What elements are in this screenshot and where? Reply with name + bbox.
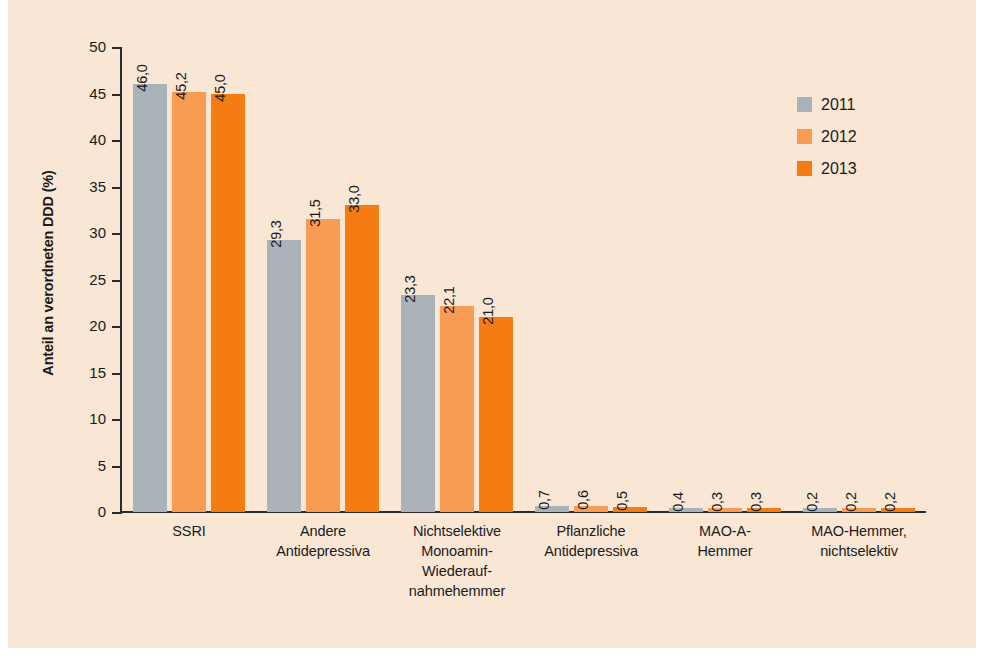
chart-figure: Anteil an verordneten DDD (%) 0510152025… [0, 0, 984, 670]
y-tick-label: 20 [52, 317, 106, 334]
bar-column[interactable]: 45,0 [211, 94, 245, 513]
bar-column[interactable]: 0,2 [842, 510, 876, 512]
bar-column[interactable]: 0,3 [747, 509, 781, 512]
y-tick-label: 30 [52, 224, 106, 241]
bar-2011[interactable] [133, 84, 167, 512]
category-label-line: nichtselektiv [780, 541, 938, 561]
bar-column[interactable]: 46,0 [133, 84, 167, 512]
bar-column[interactable]: 33,0 [345, 205, 379, 512]
bar-column[interactable]: 0,6 [574, 506, 608, 512]
category-label-line: MAO-Hemmer, [780, 521, 938, 541]
bar-value-label: 33,0 [346, 185, 362, 212]
bar-2012[interactable] [172, 92, 206, 512]
bar-value-label: 46,0 [134, 64, 150, 91]
bar-column[interactable]: 29,3 [267, 240, 301, 512]
bar-2012[interactable] [306, 219, 340, 512]
bar-value-label: 0,2 [804, 492, 820, 512]
bar-value-label: 0,2 [843, 492, 859, 512]
category-label: MAO-Hemmer,nichtselektiv [780, 521, 938, 561]
bar-value-label: 21,0 [480, 297, 496, 324]
y-tick-label: 40 [52, 131, 106, 148]
bar-column[interactable]: 0,7 [535, 506, 569, 513]
legend-swatch-icon [797, 97, 812, 112]
legend-item[interactable]: 2012 [797, 124, 857, 149]
bar-value-label: 0,3 [748, 492, 764, 512]
y-tick-label: 50 [52, 38, 106, 55]
bar-group: 0,40,30,3 [658, 47, 792, 512]
bar-column[interactable]: 0,2 [881, 510, 915, 512]
bar-value-label: 0,4 [670, 492, 686, 512]
bar-column[interactable]: 22,1 [440, 306, 474, 512]
bar-value-label: 29,3 [268, 220, 284, 247]
bar-group: 46,045,245,0 [122, 47, 256, 512]
bar-group: 0,70,60,5 [524, 47, 658, 512]
bar-2013[interactable] [211, 94, 245, 513]
category-label-line: Wiederauf- [378, 561, 536, 581]
bar-value-label: 23,3 [402, 276, 418, 303]
legend-label: 2012 [821, 128, 857, 146]
chart-legend: 201120122013 [797, 92, 857, 188]
bar-column[interactable]: 21,0 [479, 317, 513, 512]
bar-value-label: 0,3 [709, 492, 725, 512]
y-tick-label: 35 [52, 178, 106, 195]
bar-value-label: 22,1 [441, 287, 457, 314]
category-label-line: nahmehemmer [378, 581, 536, 601]
legend-label: 2011 [821, 96, 855, 114]
bar-column[interactable]: 23,3 [401, 295, 435, 512]
bar-value-label: 0,7 [536, 490, 552, 510]
bar-2013[interactable] [345, 205, 379, 512]
y-tick-label: 0 [52, 503, 106, 520]
y-tick-label: 25 [52, 271, 106, 288]
y-tick-label: 5 [52, 457, 106, 474]
bar-column[interactable]: 45,2 [172, 92, 206, 512]
y-tick-label: 15 [52, 364, 106, 381]
legend-swatch-icon [797, 129, 812, 144]
bar-group: 23,322,121,0 [390, 47, 524, 512]
bar-value-label: 45,0 [212, 74, 228, 101]
bar-column[interactable]: 0,5 [613, 507, 647, 512]
bar-column[interactable]: 0,2 [803, 510, 837, 512]
bar-column[interactable]: 0,4 [669, 508, 703, 512]
bar-value-label: 31,5 [307, 199, 323, 226]
legend-label: 2013 [821, 160, 857, 178]
legend-item[interactable]: 2011 [797, 92, 857, 117]
bar-2011[interactable] [401, 295, 435, 512]
bar-value-label: 45,2 [173, 72, 189, 99]
y-tick-label: 45 [52, 85, 106, 102]
bar-2012[interactable] [440, 306, 474, 512]
bar-group: 29,331,533,0 [256, 47, 390, 512]
bar-value-label: 0,5 [614, 492, 630, 512]
bar-2011[interactable] [267, 240, 301, 512]
bar-value-label: 0,2 [882, 492, 898, 512]
chart-canvas: Anteil an verordneten DDD (%) 0510152025… [8, 0, 976, 648]
legend-swatch-icon [797, 161, 812, 176]
y-tick-label: 10 [52, 410, 106, 427]
bar-value-label: 0,6 [575, 491, 591, 511]
bar-column[interactable]: 31,5 [306, 219, 340, 512]
bar-column[interactable]: 0,3 [708, 509, 742, 512]
legend-item[interactable]: 2013 [797, 156, 857, 181]
bar-2013[interactable] [479, 317, 513, 512]
